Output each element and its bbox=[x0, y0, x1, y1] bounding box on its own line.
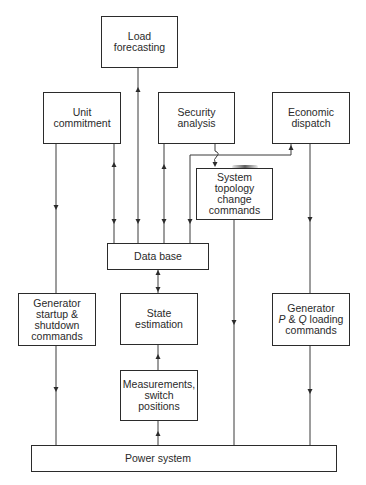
arrow-down-icon bbox=[112, 219, 117, 224]
arrow-down-icon bbox=[188, 219, 193, 224]
arrow-down-icon bbox=[308, 217, 313, 222]
box-label: startup & bbox=[36, 309, 78, 320]
arrow-down-icon bbox=[54, 205, 59, 210]
energy-control-diagram: Load forecasting Unit commitment Securit… bbox=[0, 0, 366, 485]
arrow-down-icon bbox=[213, 162, 218, 167]
arrow-up-icon bbox=[289, 145, 294, 150]
arrow-down-icon bbox=[54, 387, 59, 392]
box-label: forecasting bbox=[114, 42, 165, 53]
arrow-up-icon bbox=[162, 164, 167, 169]
box-label: commands bbox=[209, 205, 260, 216]
arrow-down-icon bbox=[156, 287, 161, 292]
box-label: dispatch bbox=[291, 118, 330, 129]
arrow-up-icon bbox=[112, 162, 117, 167]
generator-pq-box: Generator P & Q loading commands bbox=[272, 293, 350, 346]
box-label: analysis bbox=[178, 118, 216, 129]
security-analysis-box: Security analysis bbox=[158, 92, 235, 144]
measurements-box: Measurements, switch positions bbox=[120, 370, 198, 421]
arrow-down-icon bbox=[308, 389, 313, 394]
arrow-down-icon bbox=[232, 320, 237, 325]
box-label: Data base bbox=[134, 251, 182, 262]
system-topology-box: System topology change commands bbox=[196, 168, 273, 220]
load-forecasting-box: Load forecasting bbox=[101, 16, 178, 68]
data-base-box: Data base bbox=[107, 243, 209, 270]
print-smudge bbox=[232, 165, 258, 169]
arrow-up-icon bbox=[156, 431, 161, 436]
arrow-down-icon bbox=[162, 219, 167, 224]
box-label: Generator bbox=[33, 298, 80, 309]
unit-commitment-box: Unit commitment bbox=[43, 92, 121, 144]
power-system-box: Power system bbox=[31, 445, 337, 472]
generator-startup-box: Generator startup & shutdown commands bbox=[18, 293, 96, 346]
box-label: commands bbox=[31, 331, 82, 342]
arrow-up-icon bbox=[156, 354, 161, 359]
arrow-up-icon bbox=[156, 270, 161, 275]
box-label: commands bbox=[285, 325, 336, 336]
arrow-down-icon bbox=[136, 219, 141, 224]
economic-dispatch-box: Economic dispatch bbox=[272, 92, 350, 144]
box-label: commitment bbox=[53, 118, 110, 129]
arrow-up-icon bbox=[136, 87, 141, 92]
box-label: estimation bbox=[135, 319, 183, 330]
state-estimation-box: State estimation bbox=[120, 293, 198, 345]
box-label: Power system bbox=[125, 453, 191, 464]
box-label: shutdown bbox=[35, 320, 80, 331]
box-label: positions bbox=[138, 401, 179, 412]
